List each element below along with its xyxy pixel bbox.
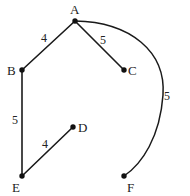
edge-weight-b-e: 5	[12, 114, 18, 126]
node-dot-b	[19, 67, 24, 72]
node-label-a: A	[70, 3, 79, 16]
edge-weight-a-c: 5	[100, 34, 106, 46]
node-label-b: B	[7, 64, 16, 77]
graph-diagram: A B C D E F 4 5 5 5 4	[0, 0, 190, 196]
node-group	[19, 18, 126, 178]
edge-weight-a-b: 4	[41, 32, 47, 44]
node-dot-f	[121, 173, 126, 178]
node-dot-a	[72, 18, 77, 23]
node-dot-d	[70, 124, 75, 129]
node-label-e: E	[12, 181, 20, 194]
node-dot-c	[121, 67, 126, 72]
edge-e-d	[22, 127, 73, 176]
node-label-c: C	[128, 64, 137, 77]
graph-canvas	[0, 0, 190, 196]
node-label-d: D	[78, 121, 87, 134]
edge-a-b	[22, 21, 75, 70]
edge-weight-a-f: 5	[164, 90, 170, 102]
edge-a-f-arc	[75, 21, 163, 176]
node-dot-e	[19, 173, 24, 178]
edge-weight-e-d: 4	[42, 138, 48, 150]
node-label-f: F	[127, 181, 134, 194]
